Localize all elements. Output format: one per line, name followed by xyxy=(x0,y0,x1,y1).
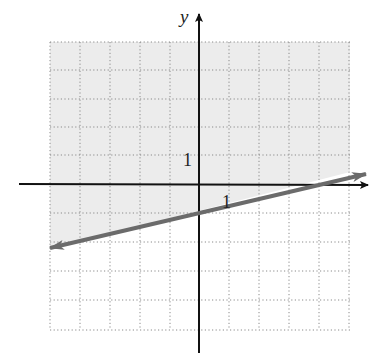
x-tick-label: 1 xyxy=(222,192,231,212)
y-tick-label: 1 xyxy=(183,150,192,170)
y-axis-label: y xyxy=(178,6,189,27)
graph: y 1 1 xyxy=(0,0,370,355)
